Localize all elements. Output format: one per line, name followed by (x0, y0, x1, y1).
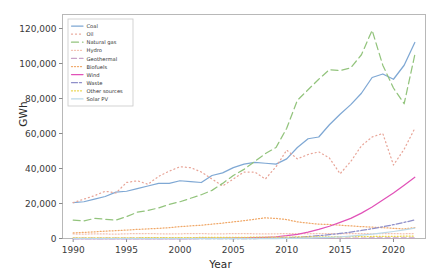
y-tick-label: 80,000 (25, 94, 57, 104)
x-tick-label: 2015 (329, 245, 352, 255)
legend-label: Hydro (87, 47, 102, 54)
legend-label: Biofuels (87, 64, 108, 70)
x-axis-label: Year (0, 258, 441, 270)
legend-label: Geothermal (87, 56, 118, 62)
legend-label: Oil (87, 31, 94, 37)
legend-label: Waste (87, 80, 103, 86)
legend-label: Natural gas (87, 39, 117, 46)
y-tick-label: 0 (51, 234, 57, 244)
legend-label: Solar PV (87, 96, 109, 102)
x-tick-label: 2005 (222, 245, 245, 255)
x-axis-ticks: 1990199520002005201020152020 (62, 239, 405, 255)
x-tick-label: 2020 (382, 245, 405, 255)
y-tick-label: 60,000 (25, 129, 57, 139)
legend-label: Wind (87, 72, 100, 78)
x-tick-label: 1995 (115, 245, 138, 255)
y-tick-label: 120,000 (19, 24, 56, 34)
chart-legend: CoalOilNatural gasHydroGeothermalBiofuel… (68, 19, 133, 106)
chart-figure: 020,00040,00060,00080,000100,000120,000 … (0, 0, 441, 276)
y-tick-label: 100,000 (19, 59, 56, 69)
y-tick-label: 40,000 (25, 164, 57, 174)
x-tick-label: 2000 (168, 245, 191, 255)
y-axis-label: GWh (17, 84, 29, 144)
x-tick-label: 2010 (275, 245, 298, 255)
x-tick-label: 1990 (62, 245, 85, 255)
y-tick-label: 20,000 (25, 199, 57, 209)
legend-label: Coal (87, 23, 98, 29)
line-chart: 020,00040,00060,00080,000100,000120,000 … (0, 0, 441, 276)
legend-label: Other sources (87, 88, 124, 94)
